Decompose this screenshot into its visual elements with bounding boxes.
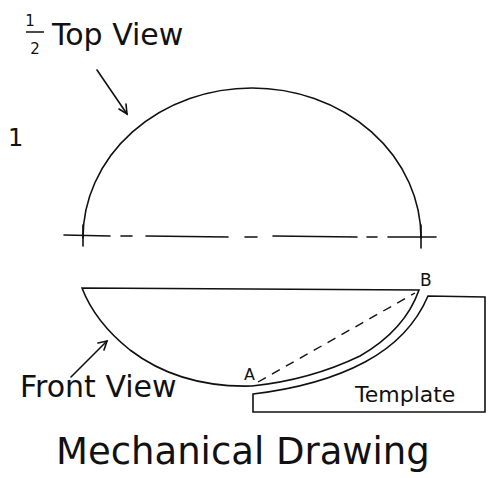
top-view-text: Top View <box>51 17 183 52</box>
drawing-title: Mechanical Drawing <box>56 430 430 473</box>
front-view-text: Front View <box>20 369 177 404</box>
top-view-label: 1 2 Top View <box>25 12 183 58</box>
template-label: Template <box>354 382 455 407</box>
center-line <box>64 225 436 248</box>
point-a-label: A <box>244 365 255 384</box>
point-b-label: B <box>420 270 432 290</box>
top-view-leader-arrow <box>97 70 127 114</box>
fraction-numerator: 1 <box>25 12 35 30</box>
fraction-denominator: 2 <box>30 40 40 58</box>
mechanical-drawing-canvas: 1 2 Top View 1 A B Template Front View <box>0 0 489 478</box>
page-number: 1 <box>8 124 23 152</box>
top-view-semicircle <box>83 88 421 238</box>
chord-ab-dashed <box>258 293 415 382</box>
